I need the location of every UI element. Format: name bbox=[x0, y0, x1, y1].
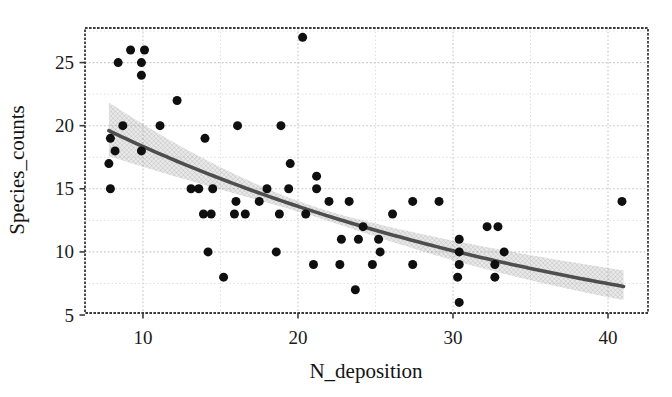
data-point bbox=[483, 222, 492, 231]
x-tick-label: 10 bbox=[133, 327, 152, 348]
data-point bbox=[276, 121, 285, 130]
data-point bbox=[354, 235, 363, 244]
plot-canvas: 10203040510152025 N_deposition Species_c… bbox=[0, 0, 672, 397]
data-point bbox=[408, 260, 417, 269]
data-point bbox=[301, 210, 310, 219]
data-point bbox=[312, 172, 321, 181]
data-point bbox=[194, 184, 203, 193]
data-point bbox=[199, 210, 208, 219]
data-point bbox=[137, 71, 146, 80]
data-point bbox=[376, 247, 385, 256]
data-point bbox=[241, 210, 250, 219]
data-point bbox=[324, 197, 333, 206]
data-point bbox=[345, 197, 354, 206]
data-point bbox=[173, 96, 182, 105]
data-point bbox=[455, 260, 464, 269]
data-point bbox=[453, 273, 462, 282]
data-point bbox=[219, 273, 228, 282]
x-tick-label: 30 bbox=[443, 327, 462, 348]
data-point bbox=[455, 298, 464, 307]
data-point bbox=[500, 247, 509, 256]
data-point bbox=[187, 184, 196, 193]
data-point bbox=[284, 184, 293, 193]
data-point bbox=[156, 121, 165, 130]
y-tick-label: 25 bbox=[55, 52, 74, 73]
y-axis-title: Species_counts bbox=[5, 105, 29, 234]
data-point bbox=[111, 146, 120, 155]
data-point bbox=[126, 45, 135, 54]
data-point bbox=[335, 260, 344, 269]
data-point bbox=[255, 197, 264, 206]
data-point bbox=[207, 210, 216, 219]
data-point bbox=[286, 159, 295, 168]
data-point bbox=[114, 58, 123, 67]
data-point bbox=[230, 210, 239, 219]
data-point bbox=[298, 33, 307, 42]
data-point bbox=[388, 210, 397, 219]
data-point bbox=[137, 146, 146, 155]
scatter-plot-figure: 10203040510152025 N_deposition Species_c… bbox=[0, 0, 672, 397]
data-point bbox=[140, 45, 149, 54]
x-axis-title: N_deposition bbox=[309, 359, 423, 383]
data-point bbox=[204, 247, 213, 256]
data-point bbox=[104, 159, 113, 168]
data-point bbox=[490, 260, 499, 269]
y-tick-label: 15 bbox=[55, 178, 74, 199]
data-point bbox=[455, 247, 464, 256]
data-point bbox=[233, 121, 242, 130]
data-point bbox=[309, 260, 318, 269]
data-point bbox=[106, 134, 115, 143]
data-point bbox=[262, 184, 271, 193]
data-point bbox=[368, 260, 377, 269]
data-point bbox=[435, 197, 444, 206]
figure-background bbox=[0, 0, 672, 397]
data-point bbox=[200, 134, 209, 143]
data-point bbox=[455, 235, 464, 244]
data-point bbox=[272, 247, 281, 256]
data-point bbox=[275, 210, 284, 219]
data-point bbox=[617, 197, 626, 206]
x-tick-label: 20 bbox=[288, 327, 307, 348]
y-tick-label: 20 bbox=[55, 115, 74, 136]
data-point bbox=[493, 222, 502, 231]
data-point bbox=[351, 285, 360, 294]
data-point bbox=[118, 121, 127, 130]
x-tick-label: 40 bbox=[599, 327, 618, 348]
y-tick-label: 5 bbox=[65, 305, 75, 326]
data-point bbox=[490, 273, 499, 282]
data-point bbox=[359, 222, 368, 231]
data-point bbox=[231, 197, 240, 206]
data-point bbox=[408, 197, 417, 206]
data-point bbox=[137, 58, 146, 67]
data-point bbox=[374, 235, 383, 244]
data-point bbox=[337, 235, 346, 244]
y-tick-label: 10 bbox=[55, 241, 74, 262]
data-point bbox=[208, 184, 217, 193]
data-point bbox=[312, 184, 321, 193]
data-point bbox=[106, 184, 115, 193]
